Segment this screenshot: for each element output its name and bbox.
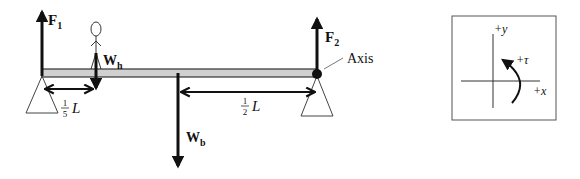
right-support-icon [301, 76, 333, 116]
axis-label: Axis [347, 51, 373, 66]
dimension-left-label: 1 5 L [61, 98, 80, 119]
x-axis-label: +x [533, 84, 547, 98]
svg-text:1: 1 [63, 98, 68, 108]
y-axis-label: +y [494, 22, 508, 36]
weight-beam-label: Wb [186, 130, 206, 148]
svg-text:1: 1 [243, 96, 248, 106]
force-f1-label: F1 [48, 12, 62, 31]
force-f2-label: F2 [325, 29, 339, 48]
svg-text:L: L [251, 98, 260, 114]
axis-leader-line [324, 58, 343, 69]
torque-label: +τ [516, 53, 529, 67]
beam-diagram: Axis F1 F2 Wh Wb 1 5 L 1 2 L [0, 0, 580, 179]
left-support-icon [26, 76, 58, 113]
svg-text:2: 2 [243, 107, 248, 117]
svg-text:5: 5 [63, 109, 68, 119]
coordinate-system-box: +y +x +τ [452, 16, 556, 120]
weight-person-label: Wh [103, 53, 123, 71]
dimension-right-label: 1 2 L [241, 96, 260, 117]
svg-text:L: L [71, 100, 80, 116]
